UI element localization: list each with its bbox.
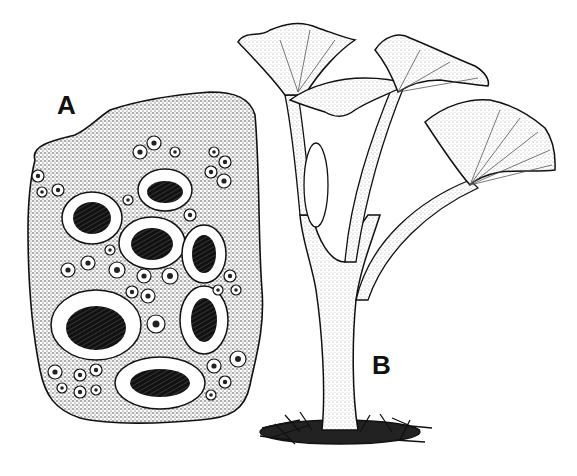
panel-label-a: A [57, 92, 76, 118]
illustration-svg [0, 0, 577, 476]
panel-b-fruiting-body [238, 24, 555, 444]
cup-right-fan [425, 100, 555, 185]
stalk [300, 215, 380, 430]
illustration-figure: A B [0, 0, 577, 476]
panel-a-substrate [28, 92, 263, 423]
panel-label-b: B [372, 352, 391, 378]
branch-right [356, 180, 478, 300]
